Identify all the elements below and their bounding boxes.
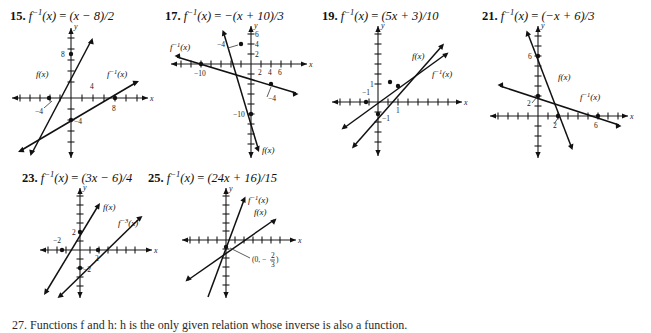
curve-label-finv-25: f−1(x) [248, 194, 268, 205]
problem-21-exp: −1 [504, 7, 514, 17]
problem-panel-23: 23. f−1(x) = (3x − 6)/4 [22, 170, 132, 185]
tick-label-neg2-y: −2 [83, 265, 91, 274]
tick-label-neg1-x: −1 [362, 88, 370, 97]
axis-label-y-21: y [540, 21, 545, 30]
curve-label-finv-23: f−3(x) [118, 217, 138, 228]
graph-25: x y (0, − 2 3 ) f−1 [178, 184, 316, 302]
curve-label-finv-21: f−1(x) [580, 91, 600, 102]
axis-label-x-19: x [463, 98, 468, 107]
annotation-num-25: 2 [271, 251, 275, 260]
problem-25-number: 25. [148, 171, 164, 185]
tick-label-1-y: 1 [370, 80, 374, 89]
curve-f-21 [526, 31, 574, 151]
tick-labels-15: 8 4 −4 −4 8 [35, 50, 116, 126]
annotation-den-25: 3 [271, 260, 275, 269]
axis-label-y-25: y [228, 184, 233, 193]
tick-label-4-x: 4 [268, 68, 272, 77]
graph-23: x y 2 −2 2 −2 [36, 182, 166, 300]
axis-label-y-15: y [73, 22, 78, 31]
axis-label-y-23: y [82, 183, 87, 192]
tick-label-1-x: 1 [396, 106, 400, 115]
problem-panel-15: 15. f−1(x) = (x − 8)/2 [10, 8, 114, 23]
problem-panel-19: 19. f−1(x) = (5x + 3)/10 [322, 8, 438, 23]
curve-f-25 [186, 219, 277, 282]
curve-f-23 [44, 203, 100, 295]
problem-19-exp: −1 [344, 7, 354, 17]
tick-label-8-x: 8 [112, 104, 116, 113]
problem-23-exp: −1 [44, 169, 54, 179]
tick-label-neg1-y: −1 [382, 114, 390, 123]
tick-label-6-x: 6 [278, 68, 282, 77]
problem-panel-17: 17. f−1(x) = −(x + 10)/3 [165, 8, 284, 23]
marked-points-17 [199, 42, 273, 116]
axis-label-y-17: y [253, 21, 258, 30]
curve-label-f-19: f(x) [412, 51, 425, 61]
tick-label-2-x: 2 [258, 68, 262, 77]
tick-label-neg4-a: −4 [217, 40, 225, 49]
graph-15: x y 8 4 −4 [8, 20, 160, 160]
axis-label-x-21: x [629, 112, 634, 121]
curve-finv-19 [342, 53, 449, 130]
tick-label-6-y: 6 [255, 30, 259, 39]
tick-label-neg10-y: −10 [233, 110, 245, 119]
tick-label-8-y: 8 [61, 50, 65, 59]
curve-label-finv-17: f−1(x) [170, 41, 190, 52]
annotation-25: (0, − 2 3 ) [230, 248, 279, 269]
curve-finv-21 [498, 82, 622, 128]
tick-label-6-x: 6 [594, 121, 598, 130]
tick-label-2-y: 2 [255, 50, 259, 59]
curve-label-f-15: f(x) [36, 69, 49, 79]
annotation-point-label-25: (0, − [252, 255, 266, 264]
tick-label-2-y: 2 [72, 228, 76, 237]
tick-label-4-x: 4 [90, 82, 94, 91]
tick-label-2-y: 2 [527, 99, 531, 108]
axes-17: x y [171, 21, 313, 158]
axes-15: x y [12, 22, 154, 158]
graph-19: x y 1 1 −1 −1 [328, 20, 473, 160]
axis-label-x-25: x [297, 236, 302, 245]
marked-points-15 [47, 52, 117, 122]
axis-label-x-15: x [149, 94, 154, 103]
problem-panel-25: 25. f−1(x) = (24x + 16)/15 [148, 170, 277, 185]
tick-label-4-y: 4 [255, 40, 259, 49]
tick-label-neg4-b: −4 [268, 94, 276, 103]
tick-label-6-y: 6 [528, 52, 532, 61]
curve-label-finv-19: f−1(x) [432, 68, 452, 79]
tick-label-2-x: 2 [95, 254, 99, 263]
curve-finv-23 [58, 216, 143, 298]
tick-label-neg2-x: −2 [53, 236, 61, 245]
tick-labels-17: 6 4 2 2 4 6 −10 −4 −4 −10 [194, 30, 282, 119]
graph-21: x y 6 2 2 6 [486, 20, 642, 162]
tick-labels-23: 2 −2 2 −2 [53, 228, 99, 274]
marked-points-25 [224, 245, 228, 249]
curve-label-f-23: f(x) [103, 202, 116, 212]
bottom-note: 27. Functions f and h: h is the only giv… [12, 318, 407, 333]
tick-label-neg4-y: −4 [74, 117, 82, 126]
tick-label-neg10-x: −10 [194, 69, 206, 78]
problem-panel-21: 21. f−1(x) = (−x + 6)/3 [482, 8, 594, 23]
axes-19: x y [332, 21, 468, 156]
curve-label-f-17: f(x) [262, 145, 275, 155]
curve-f-17 [222, 30, 260, 152]
curve-label-f-21: f(x) [558, 72, 571, 82]
problem-25-label: 25. f−1(x) = (24x + 16)/15 [148, 170, 277, 185]
problem-17-exp: −1 [187, 7, 197, 17]
annotation-close-25: ) [276, 255, 279, 264]
tick-label-neg4-x: −4 [35, 107, 43, 116]
graph-17: x y 6 4 2 2 [167, 20, 317, 162]
curve-label-finv-15: f−1(x) [107, 68, 127, 79]
axis-label-y-19: y [380, 21, 385, 30]
axis-label-x-17: x [308, 60, 313, 69]
problem-15-exp: −1 [32, 7, 42, 17]
axis-label-x-23: x [153, 246, 158, 255]
problem-25-exp: −1 [170, 169, 180, 179]
curve-label-f-25: f(x) [254, 207, 267, 217]
